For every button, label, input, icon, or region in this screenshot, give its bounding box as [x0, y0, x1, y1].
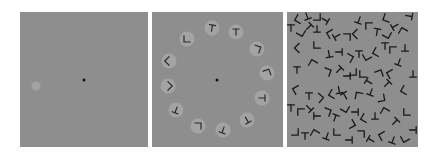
l-glyph — [311, 130, 320, 139]
t-glyph — [365, 78, 374, 87]
t-glyph — [382, 79, 391, 88]
t-glyph — [304, 22, 313, 31]
l-glyph — [379, 132, 388, 141]
grey-disc — [32, 82, 41, 91]
panel-ring-of-discs — [152, 12, 283, 147]
l-glyph — [401, 134, 410, 143]
l-glyph — [383, 30, 392, 39]
t-glyph — [314, 26, 320, 32]
l-glyph — [293, 86, 302, 95]
l-glyph — [292, 129, 298, 135]
t-glyph — [331, 114, 339, 122]
t-glyph — [355, 16, 363, 24]
t-glyph — [390, 117, 399, 126]
t-glyph — [288, 25, 294, 31]
t-glyph — [402, 45, 408, 51]
disc-item — [180, 32, 195, 47]
t-glyph — [334, 65, 343, 74]
panel-single-disc-canvas — [20, 12, 148, 147]
panel-clutter — [287, 12, 418, 147]
disc-item — [191, 119, 206, 134]
disc-item — [250, 42, 265, 57]
panel-ring-of-discs-canvas — [152, 12, 283, 147]
t-glyph — [302, 133, 308, 139]
l-glyph — [404, 109, 410, 115]
l-glyph — [361, 114, 370, 123]
t-glyph — [367, 136, 376, 145]
l-glyph — [360, 71, 366, 77]
t-glyph — [352, 109, 358, 115]
disc-item — [255, 91, 270, 106]
l-glyph — [298, 109, 304, 115]
t-glyph — [367, 88, 375, 96]
l-glyph — [373, 48, 382, 57]
disc-item — [169, 103, 184, 118]
t-glyph — [410, 71, 416, 77]
disc-item — [260, 66, 275, 81]
t-glyph — [389, 136, 397, 144]
t-glyph — [344, 73, 350, 79]
l-glyph — [390, 47, 396, 53]
t-glyph — [321, 16, 330, 25]
grey-disc — [250, 42, 265, 57]
l-glyph — [377, 94, 384, 101]
l-glyph — [387, 70, 396, 79]
t-glyph — [391, 22, 400, 31]
t-glyph — [335, 86, 342, 93]
t-glyph — [395, 58, 403, 66]
t-glyph — [333, 32, 342, 41]
l-glyph — [399, 28, 408, 37]
l-glyph — [314, 93, 323, 102]
panel-clutter-canvas — [287, 12, 418, 147]
t-glyph — [356, 51, 362, 57]
l-glyph — [334, 129, 340, 135]
l-glyph — [347, 120, 356, 129]
l-glyph — [366, 23, 372, 29]
l-glyph — [355, 92, 362, 99]
grey-disc — [191, 119, 206, 134]
t-glyph — [410, 127, 416, 133]
l-glyph — [344, 34, 350, 40]
l-glyph — [383, 14, 391, 22]
l-glyph — [375, 70, 383, 78]
l-glyph — [314, 14, 320, 20]
l-glyph — [345, 54, 354, 63]
disc-item — [162, 54, 177, 69]
grey-disc — [162, 54, 177, 69]
l-glyph — [323, 68, 331, 76]
l-glyph — [358, 131, 364, 137]
t-glyph — [303, 12, 311, 20]
l-glyph — [341, 104, 350, 113]
l-glyph — [309, 60, 318, 69]
t-glyph — [294, 67, 300, 73]
t-glyph — [382, 43, 388, 49]
t-glyph — [336, 49, 342, 55]
t-glyph — [325, 50, 332, 57]
disc-item — [229, 25, 244, 40]
panel-single-disc — [20, 12, 148, 147]
t-glyph — [288, 105, 294, 111]
disc-item — [161, 79, 176, 94]
l-glyph — [352, 29, 361, 38]
disc-item — [240, 113, 255, 128]
l-glyph — [297, 28, 306, 37]
disc-item — [205, 21, 220, 36]
l-glyph — [314, 42, 320, 48]
grey-disc — [180, 32, 195, 47]
disc-item — [216, 123, 231, 138]
grey-disc — [161, 79, 176, 94]
t-glyph — [405, 12, 412, 19]
t-glyph — [346, 137, 352, 143]
fixation-point — [216, 79, 219, 82]
fixation-point — [83, 79, 86, 82]
t-glyph — [372, 113, 378, 119]
t-glyph — [373, 28, 380, 35]
l-glyph — [323, 108, 331, 116]
l-glyph — [381, 108, 390, 117]
t-glyph — [304, 103, 313, 112]
grey-disc — [260, 66, 275, 81]
l-glyph — [363, 52, 372, 61]
t-glyph — [323, 132, 331, 140]
l-glyph — [294, 43, 303, 52]
t-glyph — [306, 93, 312, 99]
